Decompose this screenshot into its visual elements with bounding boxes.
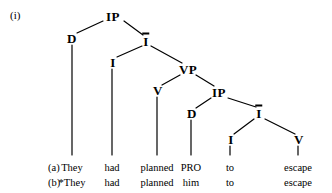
sentence-word-1-3: him [183,178,199,189]
tree-node-ibar2: I [256,107,261,120]
sentence-row-label-0: (a) [48,163,60,174]
tree-edges [77,21,295,134]
tree-edge-vp-v1 [162,75,180,85]
tree-edge-ibar1-vp [151,46,182,63]
tree-node-v2: V [294,133,304,146]
tree-edge-ibar1-i1 [117,46,142,57]
tree-node-i2: I [228,133,233,146]
tree-node-i1: I [110,56,115,69]
tree-node-v1: V [153,84,163,97]
tree-node-ip2: IP [212,86,226,99]
tree-edge-ip1-d1 [77,21,103,33]
tree-node-d1: D [67,32,77,45]
tree-edge-ibar2-i2 [234,119,254,134]
sentence-word-1-2: planned [140,178,173,189]
tree-edge-ip2-d2 [196,98,211,108]
tree-edge-ip2-ibar2 [228,98,256,107]
sentence-word-1-0: *They [59,178,86,189]
bar-level-marker: I [256,107,261,120]
tree-edge-ibar2-v2 [265,119,295,134]
tree-node-ibar1: I [143,35,148,48]
tree-node-vp: VP [179,63,197,76]
sentence-word-0-0: They [61,163,83,174]
sentence-word-0-2: planned [140,163,173,174]
bar-level-marker: I [143,35,148,48]
sentence-word-0-5: escape [284,163,312,174]
sentence-word-0-1: had [104,163,119,174]
sentence-word-0-3: PRO [181,163,201,174]
sentence-word-0-4: to [226,163,234,174]
tree-edge-ip1-ibar1 [124,21,143,35]
sentence-word-1-5: escape [284,178,312,189]
sentence-word-1-1: had [104,178,119,189]
tree-node-ip1: IP [106,10,120,23]
tree-node-d2: D [187,107,197,120]
sentence-word-1-4: to [226,178,234,189]
syntax-tree-figure: (i) IPDIIVPVIPDIIV (a)TheyhadplannedPROt… [0,0,332,193]
